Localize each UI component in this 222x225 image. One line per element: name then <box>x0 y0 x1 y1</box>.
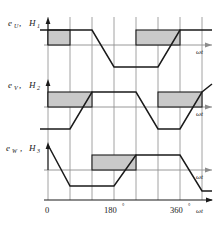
x-tick-degree-180: ° <box>122 203 125 209</box>
trace-w-emf-label: e <box>6 143 10 153</box>
trace-w-comma: , <box>20 143 22 153</box>
trace-v-emf-label: e <box>8 80 12 90</box>
shaded-block <box>92 155 136 170</box>
x-tick-degree-360: ° <box>188 203 191 209</box>
x-axis-arrow <box>206 197 213 202</box>
trace-w-group: e W , H 3 ωt <box>6 142 212 191</box>
trace-v-hall-label: H <box>28 80 36 90</box>
shaded-block <box>136 30 180 45</box>
trace-w-hall-label: H <box>28 143 36 153</box>
shaded-block <box>158 92 202 107</box>
shaded-block <box>48 30 70 45</box>
trace-u-group: e U , H 1 ωt <box>8 17 212 67</box>
trace-u-axis-label: ωt <box>196 48 204 56</box>
waveform-figure: e U , H 1 ωt e V , H 2 ωt <box>0 0 222 225</box>
trace-v-axis-label: ωt <box>196 110 204 118</box>
trace-w-hall-sub: 3 <box>36 148 40 154</box>
x-axis-group: 0 180 ° 360 ° ωt <box>44 197 213 215</box>
trace-v-group: e V , H 2 ωt <box>8 79 212 129</box>
trace-u-comma: , <box>19 18 21 28</box>
trace-v-shaded-regions <box>48 92 202 107</box>
trace-w-emf-sub: W <box>12 148 18 154</box>
x-axis-label: ωt <box>196 207 204 215</box>
trace-u-hall-sub: 1 <box>37 23 40 29</box>
trace-v-hall-sub: 2 <box>37 85 40 91</box>
trace-u-emf-label: e <box>8 18 12 28</box>
waveform-svg: e U , H 1 ωt e V , H 2 ωt <box>0 0 222 225</box>
trace-w-axis-label: ωt <box>196 173 204 181</box>
x-tick-label-0: 0 <box>45 205 49 215</box>
trace-w-shaded-regions <box>92 155 136 170</box>
trace-u-hall-label: H <box>28 18 36 28</box>
x-tick-label-180: 180 <box>104 205 117 215</box>
x-tick-label-360: 360 <box>170 205 183 215</box>
shaded-block <box>48 92 92 107</box>
trace-v-comma: , <box>19 80 21 90</box>
